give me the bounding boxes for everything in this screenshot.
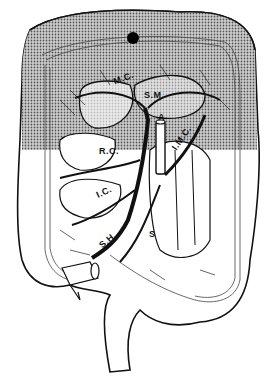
label-superior-mesenteric: S.M. — [144, 90, 165, 100]
aorta — [156, 122, 165, 174]
label-aorta: A — [158, 112, 165, 122]
label-right-colic: R.C. — [99, 146, 119, 156]
shaded-transverse-region — [22, 10, 257, 150]
colon-artery-diagram: M.C. S.M. A R.C. I.M.C. I.C. S.H. S — [0, 0, 267, 382]
diagram-drawing — [0, 0, 267, 382]
label-sigmoid: S — [149, 229, 156, 239]
marker-dot — [127, 32, 139, 44]
